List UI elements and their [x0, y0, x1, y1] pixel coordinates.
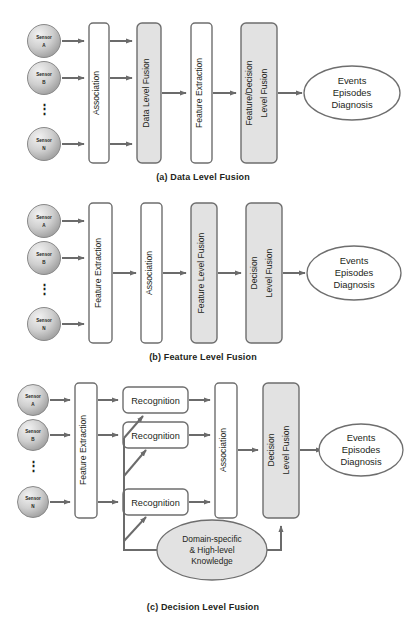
sensor-b-name: Sensor — [36, 72, 52, 77]
stage-feature-decision-level-fusion: Feature/Decision Level Fusion — [241, 23, 277, 163]
figure-data-level-fusion: Sensor A Sensor B ⋮ Sensor N Association — [0, 18, 406, 168]
sensor-ellipsis: ⋮ — [38, 101, 51, 116]
sensor-node-b: Sensor B — [18, 420, 49, 451]
stage-decision-level-fusion: Decision Level Fusion — [263, 383, 299, 518]
recognition-to-assoc-arrows — [189, 400, 210, 502]
stage-feature-extraction-label: Feature Extraction — [93, 238, 103, 308]
recognition-box-1: Recognition — [123, 387, 188, 413]
sensor-b-name: Sensor — [25, 429, 41, 434]
sensor-node-a: Sensor A — [18, 385, 49, 416]
caption-a: (a) Data Level Fusion — [0, 172, 406, 182]
output-line-3: Diagnosis — [333, 279, 374, 290]
stage-feature-extraction: Feature Extraction — [191, 23, 212, 163]
stage-dlf-label-line2: Level Fusion — [281, 425, 291, 474]
fe-to-recognition-arrows — [98, 400, 118, 502]
stage-data-level-fusion: Data Level Fusion — [137, 23, 161, 163]
output-ellipse-a: Events Episodes Diagnosis — [304, 66, 400, 120]
recognition-box-2-label: Recognition — [131, 431, 180, 441]
association-arrows — [110, 41, 132, 144]
sensor-node-b: Sensor B — [28, 242, 61, 275]
output-line-2: Episodes — [342, 444, 381, 455]
sensor-node-a: Sensor A — [28, 25, 61, 58]
sensor-a-name: Sensor — [36, 35, 52, 40]
stage-feature-extraction: Feature Extraction — [89, 203, 112, 343]
caption-b: (b) Feature Level Fusion — [0, 352, 406, 362]
stage-dlf-label-line1: Decision — [266, 433, 276, 466]
recognition-box-3: Recognition — [123, 489, 188, 515]
figure-sheet: Sensor A Sensor B ⋮ Sensor N Association — [0, 0, 406, 634]
knowledge-ellipse: Domain-specific & High-level Knowledge — [157, 520, 267, 580]
stage-data-level-fusion-label: Data Level Fusion — [141, 58, 151, 127]
sensor-a-name: Sensor — [25, 394, 41, 399]
sensor-arrows — [62, 41, 84, 144]
sensor-n-name: Sensor — [36, 318, 52, 323]
stage-association-label: Association — [218, 428, 228, 472]
figure-decision-level-fusion: Sensor A Sensor B ⋮ Sensor N Feature Ext… — [0, 378, 406, 593]
output-ellipse-c: Events Episodes Diagnosis — [319, 424, 403, 476]
sensor-n-name: Sensor — [36, 138, 52, 143]
stage-feature-level-fusion-label: Feature Level Fusion — [196, 232, 206, 313]
output-ellipse-b: Events Episodes Diagnosis — [307, 246, 401, 300]
knowledge-line-3: Knowledge — [191, 556, 233, 566]
stage-association-label: Association — [91, 71, 101, 115]
stage-fdlf-label-line2: Level Fusion — [259, 68, 269, 117]
sensor-a-name: Sensor — [36, 215, 52, 220]
sensor-arrows — [50, 400, 70, 502]
sensor-ellipsis: ⋮ — [27, 458, 40, 473]
sensor-node-b: Sensor B — [28, 62, 61, 95]
stage-feature-level-fusion: Feature Level Fusion — [191, 203, 217, 343]
recognition-box-2: Recognition — [123, 422, 188, 448]
output-line-1: Events — [340, 255, 369, 266]
stage-feature-extraction-label: Feature Extraction — [78, 415, 88, 485]
stage-association-label: Association — [144, 251, 154, 295]
output-line-2: Episodes — [335, 267, 374, 278]
figure-feature-level-fusion: Sensor A Sensor B ⋮ Sensor N Feature Ext… — [0, 198, 406, 348]
sensor-n-name: Sensor — [25, 496, 41, 501]
stage-fdlf-label-line1: Feature/Decision — [244, 60, 254, 125]
stage-dlf-label-line2: Level Fusion — [264, 248, 274, 297]
caption-c: (c) Decision Level Fusion — [0, 602, 406, 612]
knowledge-line-2: & High-level — [189, 545, 234, 555]
stage-association: Association — [215, 383, 237, 518]
sensor-ellipsis: ⋮ — [38, 281, 51, 296]
stage-dlf-label-line1: Decision — [249, 256, 259, 289]
sensor-b-name: Sensor — [36, 252, 52, 257]
recognition-box-1-label: Recognition — [131, 396, 180, 406]
stage-decision-level-fusion: Decision Level Fusion — [246, 203, 282, 343]
recognition-box-3-label: Recognition — [131, 498, 180, 508]
output-line-3: Diagnosis — [331, 99, 372, 110]
output-line-2: Episodes — [333, 87, 372, 98]
output-line-3: Diagnosis — [340, 456, 381, 467]
stage-association: Association — [141, 203, 162, 343]
stage-association: Association — [89, 23, 109, 163]
sensor-node-n: Sensor N — [28, 128, 61, 161]
stage-feature-extraction-label: Feature Extraction — [194, 58, 204, 128]
output-line-1: Events — [338, 75, 367, 86]
sensor-node-a: Sensor A — [28, 205, 61, 238]
output-line-1: Events — [347, 432, 376, 443]
sensor-node-n: Sensor N — [18, 487, 49, 518]
stage-feature-extraction: Feature Extraction — [75, 383, 97, 518]
sensor-node-n: Sensor N — [28, 308, 61, 341]
knowledge-line-1: Domain-specific — [182, 534, 242, 544]
sensor-arrows — [62, 221, 84, 324]
